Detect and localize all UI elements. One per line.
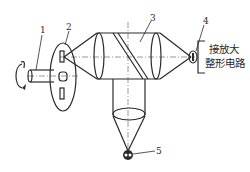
label-2: 2 <box>66 22 72 32</box>
label-1: 1 <box>40 25 46 35</box>
encoder-diagram: 接放大 整形电路 1 2 3 4 5 <box>0 0 250 172</box>
light-source <box>123 150 133 160</box>
label-5: 5 <box>156 146 162 156</box>
lens-assembly <box>94 33 161 79</box>
disk-slot-bottom <box>60 88 64 99</box>
circuit-text-line1: 接放大 <box>209 43 240 55</box>
disk-hub <box>59 72 67 81</box>
circuit-bracket <box>198 41 205 73</box>
lower-lens <box>113 108 145 120</box>
left-lens <box>94 33 104 79</box>
right-lens <box>151 33 161 79</box>
label-4: 4 <box>203 16 209 26</box>
circuit-text-line2: 整形电路 <box>205 57 246 69</box>
code-disk <box>50 43 76 111</box>
beam-splitter <box>113 33 143 79</box>
disk-slot-top <box>60 51 64 62</box>
label-3: 3 <box>150 13 156 23</box>
rotation-arrow-icon <box>16 62 26 90</box>
